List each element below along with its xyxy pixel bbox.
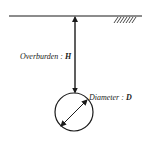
overburden-label: Overburden : H (20, 52, 72, 61)
tunnel-cross-section (55, 93, 93, 131)
ground-hatching (114, 17, 136, 23)
tunnel-overburden-diagram: Overburden : H Diameter : D (0, 0, 151, 145)
diameter-label: Diameter : D (88, 93, 132, 102)
